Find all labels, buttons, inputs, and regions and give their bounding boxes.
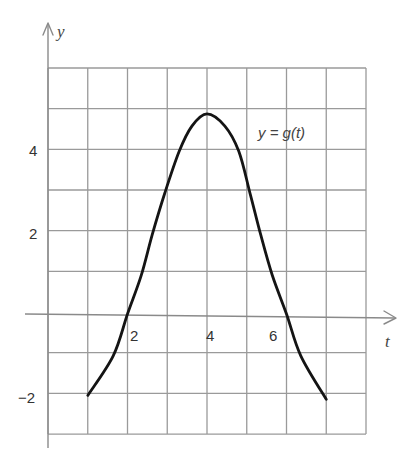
x-tick-label-4: 4 bbox=[206, 327, 214, 344]
grid bbox=[48, 68, 366, 434]
y-tick-label-2: 2 bbox=[29, 225, 37, 242]
x-axis-title: t bbox=[385, 332, 391, 351]
y-tick-label-4: 4 bbox=[29, 142, 37, 159]
y-tick-label-neg2: −2 bbox=[18, 389, 35, 406]
chart-area: y t 2 4 6 4 2 −2 y = g(t) bbox=[0, 0, 407, 460]
x-tick-label-6: 6 bbox=[269, 327, 277, 344]
curve-label: y = g(t) bbox=[257, 124, 305, 141]
y-axis-title: y bbox=[55, 22, 65, 41]
x-tick-label-2: 2 bbox=[130, 327, 138, 344]
x-axis bbox=[25, 314, 395, 318]
